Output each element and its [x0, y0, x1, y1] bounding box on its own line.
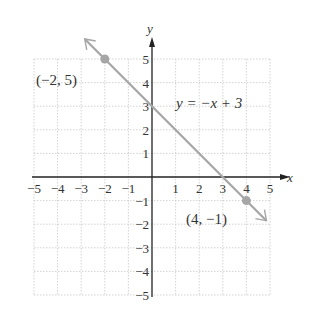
svg-text:1: 1: [172, 181, 179, 196]
svg-text:−1: −1: [121, 181, 135, 196]
svg-text:−3: −3: [74, 181, 88, 196]
svg-text:3: 3: [220, 181, 227, 196]
point-label-1: (−2, 5): [36, 72, 77, 89]
svg-text:−2: −2: [135, 217, 149, 232]
equation-label: y = −x + 3: [174, 95, 242, 111]
svg-text:−5: −5: [135, 288, 149, 303]
svg-text:1: 1: [143, 146, 150, 161]
svg-text:−5: −5: [27, 181, 41, 196]
svg-text:−4: −4: [135, 264, 149, 279]
svg-text:2: 2: [196, 181, 203, 196]
svg-text:4: 4: [143, 76, 150, 91]
svg-text:5: 5: [267, 181, 274, 196]
y-axis-label: y: [145, 21, 153, 36]
svg-text:−2: −2: [98, 181, 112, 196]
graph: −5−4−3−2−11234554321−1−2−3−4−5 y x y = −…: [0, 0, 312, 319]
svg-text:−4: −4: [51, 181, 65, 196]
svg-text:2: 2: [143, 123, 150, 138]
x-axis-label: x: [286, 170, 293, 185]
svg-text:4: 4: [243, 181, 250, 196]
point-label-2: (4, −1): [186, 211, 227, 228]
svg-text:−1: −1: [135, 194, 149, 209]
svg-text:−3: −3: [135, 241, 149, 256]
svg-text:5: 5: [143, 52, 150, 67]
